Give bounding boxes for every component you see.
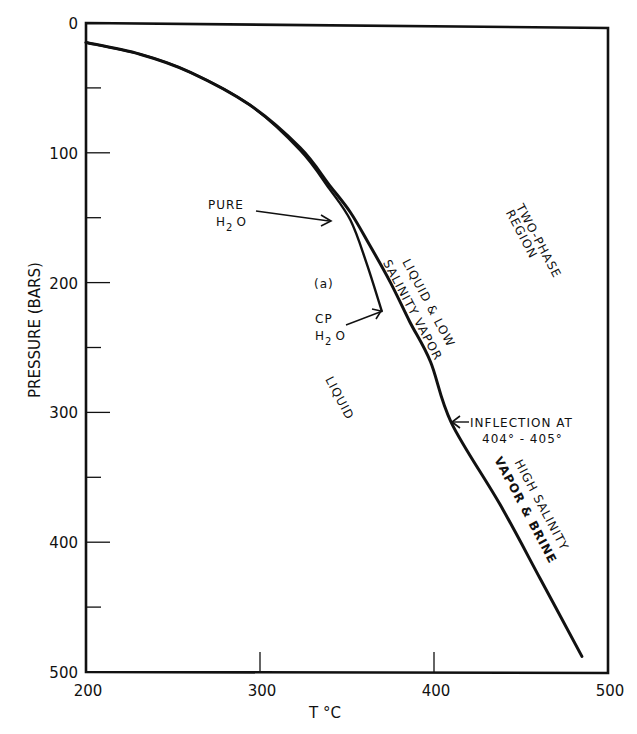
plot-frame [86,23,608,673]
y-axis-ticks [86,88,110,607]
phase-diagram-chart: 0100200300400500 200300400500 T °C PRESS… [0,0,637,734]
x-tick-label: 300 [248,682,277,700]
x-tick-label: 400 [422,682,451,700]
y-tick-label: 300 [49,404,78,422]
y-tick-label: 400 [49,534,78,552]
y-axis-title: PRESSURE (BARS) [26,262,44,398]
panel-label: (a) [314,277,334,291]
svg-text:404° - 405°: 404° - 405° [482,432,563,446]
x-axis-ticks [260,652,434,672]
svg-text:CP: CP [315,312,333,326]
y-tick-label: 100 [49,145,78,163]
cp-h2o-annotation: CP H2O [315,309,381,347]
svg-text:INFLECTION AT: INFLECTION AT [470,416,573,430]
x-axis-tick-labels: 200300400500 [74,682,625,700]
y-tick-label: 200 [49,275,78,293]
two-phase-boundary-curve [86,43,582,657]
inflection-annotation: INFLECTION AT 404° - 405° [452,416,573,446]
pure-h2o-annotation: PURE H2O [208,198,331,233]
y-tick-label: 0 [68,15,78,33]
region-label-liquid: LIQUID [322,374,357,422]
x-tick-label: 500 [596,682,625,700]
pure-h2o-arrow [256,211,329,221]
x-axis-title: T °C [308,704,341,722]
y-axis-tick-labels: 0100200300400500 [49,15,78,682]
y-tick-label: 500 [49,664,78,682]
pure-h2o-curve [86,43,382,312]
x-tick-label: 200 [74,682,103,700]
cp-h2o-arrow [346,312,380,325]
svg-text:PURE: PURE [208,198,244,212]
svg-text:H2O: H2O [216,215,247,233]
svg-text:H2O: H2O [315,329,346,347]
